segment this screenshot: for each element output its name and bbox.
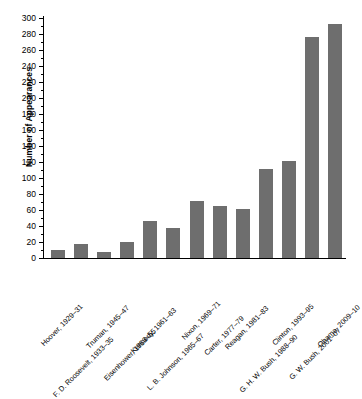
x-tick-label: G. W. Bush, 2001–07 bbox=[288, 326, 343, 381]
y-tick-label: 180 bbox=[22, 109, 36, 119]
y-tick-label: 200 bbox=[22, 93, 36, 103]
x-tick-label: Obama, 2009–10 bbox=[316, 303, 362, 349]
y-tick-label: 60 bbox=[27, 205, 36, 215]
y-tick-label: 160 bbox=[22, 125, 36, 135]
bar[interactable] bbox=[74, 244, 88, 258]
bar[interactable] bbox=[166, 228, 180, 258]
bar[interactable] bbox=[236, 209, 250, 258]
x-tick-label: Carter, 1977–79 bbox=[202, 314, 245, 357]
bar[interactable] bbox=[190, 201, 204, 258]
x-tick-label: Reagan, 1981–83 bbox=[223, 304, 270, 351]
y-tick-label: 220 bbox=[22, 77, 36, 87]
y-tick-label: 20 bbox=[27, 237, 36, 247]
y-tick-label: 240 bbox=[22, 61, 36, 71]
x-tick-label: Truman, 1945–47 bbox=[84, 304, 131, 351]
plot-area bbox=[44, 18, 345, 258]
bar[interactable] bbox=[282, 161, 296, 258]
y-tick-label: 280 bbox=[22, 29, 36, 39]
y-tick-major bbox=[39, 258, 44, 259]
x-tick-label: Kennedy, 1961–63 bbox=[129, 306, 178, 355]
bar[interactable] bbox=[305, 37, 319, 258]
bar[interactable] bbox=[328, 24, 342, 258]
x-tick-label: Clinton, 1993–95 bbox=[270, 302, 315, 347]
y-tick-label: 40 bbox=[27, 221, 36, 231]
x-tick-label: L. B. Johnson, 1965–67 bbox=[145, 331, 206, 392]
x-tick-label: Hoover, 1929–31 bbox=[39, 302, 85, 348]
bar[interactable] bbox=[143, 221, 157, 258]
x-axis-line bbox=[43, 258, 346, 259]
y-tick-label: 300 bbox=[22, 13, 36, 23]
bar[interactable] bbox=[213, 206, 227, 258]
y-tick-label: 100 bbox=[22, 173, 36, 183]
y-tick-label: 0 bbox=[31, 253, 36, 263]
x-tick-label: G. H. W. Bush, 1988–90 bbox=[237, 333, 299, 395]
y-tick-label: 80 bbox=[27, 189, 36, 199]
x-tick-label: F. D. Roosevelt, 1933–35 bbox=[51, 335, 115, 399]
y-axis-ticks: 0204060801001201401601802002202402602803… bbox=[0, 0, 44, 348]
y-tick-label: 140 bbox=[22, 141, 36, 151]
y-tick-label: 120 bbox=[22, 157, 36, 167]
bar[interactable] bbox=[51, 250, 65, 258]
bar[interactable] bbox=[120, 242, 134, 258]
y-tick-label: 260 bbox=[22, 45, 36, 55]
bar[interactable] bbox=[97, 252, 111, 258]
x-tick-label: Eisenhower, 1953–55 bbox=[102, 327, 158, 383]
x-tick-label: Nixon, 1969–71 bbox=[179, 299, 221, 341]
bar[interactable] bbox=[259, 169, 273, 258]
